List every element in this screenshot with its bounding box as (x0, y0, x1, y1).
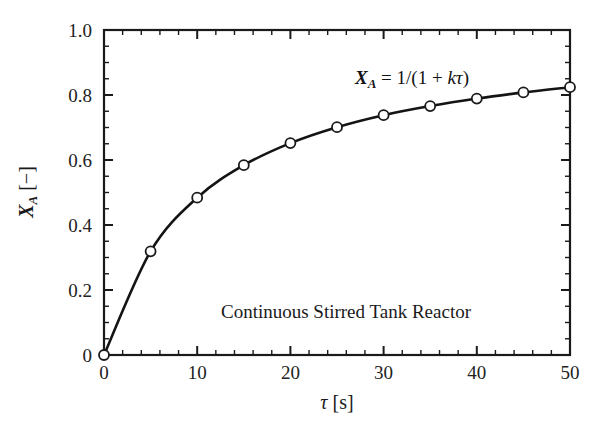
data-point-marker (99, 350, 109, 360)
x-axis-title: τ[s] (320, 391, 353, 413)
data-point-marker (332, 122, 342, 132)
x-tick-label: 10 (188, 362, 207, 383)
equation-lhs-subscript: A (367, 76, 377, 91)
x-tick-label: 0 (99, 362, 109, 383)
data-point-marker (146, 246, 156, 256)
y-tick-label: 0.8 (68, 85, 92, 106)
data-point-marker (472, 94, 482, 104)
x-tick-label: 40 (467, 362, 486, 383)
equation-rhs: = 1/(1 + (376, 67, 447, 89)
data-point-marker (239, 160, 249, 170)
data-point-marker (379, 110, 389, 120)
y-tick-label: 1.0 (68, 20, 92, 41)
equation-close-paren: ) (463, 67, 469, 89)
data-point-marker (285, 138, 295, 148)
reactor-caption: Continuous Stirred Tank Reactor (221, 301, 472, 322)
plot-canvas: 01020304050 00.20.40.60.81.0 τ[s] XA[−] … (0, 0, 606, 437)
x-tick-label: 30 (374, 362, 393, 383)
y-tick-label: 0.6 (68, 150, 92, 171)
data-point-marker (518, 87, 528, 97)
data-point-marker (565, 82, 575, 92)
x-axis-unit: [s] (333, 391, 354, 413)
y-tick-label: 0.4 (68, 215, 92, 236)
y-axis-subscript: A (25, 195, 40, 205)
y-tick-label: 0.2 (68, 280, 92, 301)
y-axis-symbol: X (15, 204, 37, 219)
chart-figure: 01020304050 00.20.40.60.81.0 τ[s] XA[−] … (0, 0, 606, 437)
x-tick-label: 20 (281, 362, 300, 383)
data-point-marker (425, 101, 435, 111)
x-axis-symbol: τ (320, 391, 328, 413)
data-point-marker (192, 193, 202, 203)
y-axis-unit: [−] (15, 166, 37, 191)
x-tick-label: 50 (561, 362, 580, 383)
y-tick-label: 0 (83, 345, 93, 366)
